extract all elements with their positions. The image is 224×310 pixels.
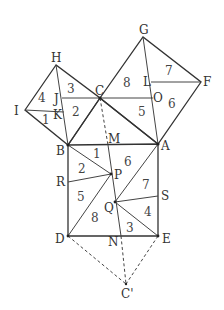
line-RP <box>68 174 111 182</box>
region-medium-7: 7 <box>165 64 173 78</box>
label-M: M <box>108 132 120 146</box>
label-C: C <box>95 84 104 98</box>
point-labels: H I J K B C G F L O A M P Q R S D E N C' <box>14 23 211 301</box>
line-BP <box>68 145 111 174</box>
region-small-1: 1 <box>42 113 50 127</box>
label-J: J <box>52 92 59 106</box>
label-A: A <box>160 139 170 153</box>
label-L: L <box>143 75 151 89</box>
label-N: N <box>108 235 119 249</box>
label-K: K <box>53 108 63 122</box>
diagram-canvas: H I J K B C G F L O A M P Q R S D E N C'… <box>0 0 224 310</box>
region-medium-5: 5 <box>138 105 146 119</box>
dash-NCp <box>121 236 126 284</box>
label-E: E <box>162 232 171 246</box>
label-D: D <box>55 232 65 246</box>
region-medium-8: 8 <box>123 76 131 90</box>
region-large-2: 2 <box>78 162 86 176</box>
label-B: B <box>56 144 65 158</box>
region-large-8: 8 <box>91 211 99 225</box>
region-large-3: 3 <box>126 221 134 235</box>
line-MN <box>108 145 121 236</box>
medium-square <box>100 37 201 144</box>
label-R: R <box>56 175 66 189</box>
region-small-4: 4 <box>38 91 46 105</box>
region-large-4: 4 <box>144 205 152 219</box>
region-large-7: 7 <box>142 178 150 192</box>
small-square <box>25 65 100 145</box>
line-SQ <box>115 196 158 202</box>
label-O: O <box>153 91 163 105</box>
label-Q: Q <box>104 201 114 215</box>
label-S: S <box>161 189 169 203</box>
label-I: I <box>14 104 19 118</box>
label-Cprime: C' <box>121 287 133 301</box>
dash-CM <box>100 98 108 145</box>
region-large-6: 6 <box>124 155 132 169</box>
pythagorean-dissection-diagram: H I J K B C G F L O A M P Q R S D E N C'… <box>0 0 224 310</box>
region-small-2: 2 <box>72 105 80 119</box>
label-P: P <box>114 168 122 182</box>
dash-ECp <box>126 236 158 284</box>
label-H: H <box>51 51 61 65</box>
label-G: G <box>139 23 149 37</box>
label-F: F <box>203 75 211 89</box>
region-medium-6: 6 <box>168 97 176 111</box>
region-large-1: 1 <box>93 147 101 161</box>
region-large-5: 5 <box>77 190 85 204</box>
region-small-3: 3 <box>67 82 75 96</box>
